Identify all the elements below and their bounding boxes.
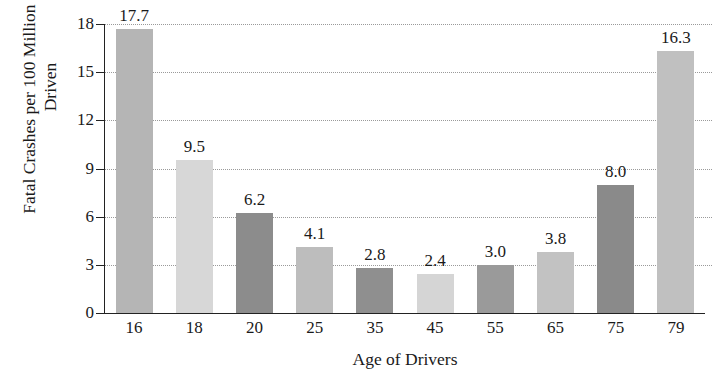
x-axis-line (104, 313, 705, 314)
bar-value-label: 9.5 (164, 138, 224, 156)
bar-chart-figure: Fatal Crashes per 100 Million Miles Driv… (0, 0, 714, 384)
y-tick-mark (96, 120, 104, 121)
x-axis-title: Age of Drivers (104, 349, 706, 370)
bar-value-label: 2.8 (345, 246, 405, 264)
x-tick-label: 18 (164, 318, 224, 338)
x-tick-label: 65 (526, 318, 586, 338)
bar-value-label: 8.0 (586, 163, 646, 181)
y-tick-mark (96, 217, 104, 218)
y-tick-mark (96, 24, 104, 25)
bar-value-label: 17.7 (104, 7, 164, 25)
y-tick-label: 6 (54, 208, 94, 225)
bar-value-label: 4.1 (285, 225, 345, 243)
bar (537, 252, 574, 313)
bar (356, 268, 393, 313)
x-tick-label: 45 (405, 318, 465, 338)
y-tick-label: 3 (54, 256, 94, 273)
bar-value-label: 3.0 (465, 243, 525, 261)
y-tick-mark (96, 265, 104, 266)
bar (176, 160, 213, 313)
x-tick-label: 35 (345, 318, 405, 338)
bar-value-label: 2.4 (405, 252, 465, 270)
x-tick-label: 79 (646, 318, 706, 338)
bar (417, 274, 454, 313)
bar-value-label: 6.2 (225, 191, 285, 209)
x-tick-label: 55 (465, 318, 525, 338)
x-tick-label: 75 (586, 318, 646, 338)
bar (116, 29, 153, 313)
x-tick-label: 16 (104, 318, 164, 338)
y-tick-label: 15 (54, 63, 94, 80)
y-tick-label: 9 (54, 160, 94, 177)
bar-value-label: 3.8 (526, 230, 586, 248)
y-tick-mark (96, 169, 104, 170)
y-tick-mark (96, 313, 104, 314)
bar (597, 185, 634, 313)
chart-title (0, 0, 714, 6)
y-tick-label: 12 (54, 111, 94, 128)
x-tick-label: 20 (225, 318, 285, 338)
bar (657, 51, 694, 313)
bar-value-label: 16.3 (646, 29, 706, 47)
x-tick-label: 25 (285, 318, 345, 338)
bar (477, 265, 514, 313)
bar (296, 247, 333, 313)
y-tick-label: 18 (54, 15, 94, 32)
y-tick-mark (96, 72, 104, 73)
bar (236, 213, 273, 313)
y-tick-label: 0 (54, 304, 94, 321)
